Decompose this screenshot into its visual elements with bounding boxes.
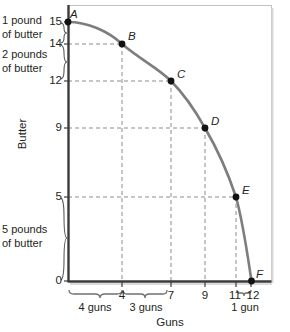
point-marker-e[interactable]: [233, 194, 240, 201]
note-2-pounds-line1: 2 pounds: [2, 49, 47, 61]
point-marker-c[interactable]: [168, 78, 175, 85]
point-label-f: F: [256, 268, 263, 280]
point-label-b: B: [128, 30, 136, 42]
note-3-guns: 3 guns: [118, 302, 174, 314]
x-tick-label-12: 12: [243, 289, 263, 301]
y-brace-5-pounds: [61, 198, 67, 280]
point-label-c: C: [177, 68, 185, 80]
x-brace-group: [69, 290, 251, 298]
note-1-pound-line1: 1 pound: [2, 15, 42, 27]
y-tick-label-5: 5: [34, 190, 62, 202]
y-tick-label-12: 12: [34, 74, 62, 86]
point-label-a: A: [70, 8, 78, 20]
note-1-pound-line2: of butter: [2, 29, 42, 41]
y-tick-label-9: 9: [34, 121, 62, 133]
point-marker-b[interactable]: [119, 41, 126, 48]
y-axis-title: Butter: [16, 104, 28, 164]
note-1-gun: 1 gun: [218, 302, 272, 314]
note-2-pounds-line2: of butter: [2, 63, 42, 75]
plot-frame: [69, 6, 272, 282]
x-axis-title: Guns: [140, 316, 200, 328]
y-brace-group: [61, 23, 67, 280]
point-marker-d[interactable]: [202, 125, 209, 132]
point-marker-f[interactable]: [248, 278, 255, 285]
note-4-guns: 4 guns: [65, 302, 125, 314]
x-tick-label-4: 4: [112, 289, 132, 301]
x-tick-label-7: 7: [161, 289, 181, 301]
point-label-e: E: [242, 184, 250, 196]
note-5-pounds-line2: of butter: [2, 238, 42, 250]
x-tick-label-9: 9: [195, 289, 215, 301]
point-label-d: D: [211, 115, 219, 127]
note-5-pounds-line1: 5 pounds: [2, 224, 47, 236]
y-tick-label-0: 0: [34, 274, 62, 286]
x-tick-label-11: 11: [225, 289, 245, 301]
